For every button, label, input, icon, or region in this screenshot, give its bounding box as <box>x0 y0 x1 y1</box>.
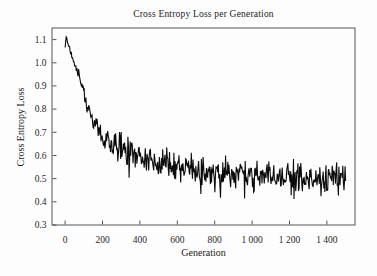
x-tick-label: 600 <box>170 235 185 245</box>
y-tick-label: 1.0 <box>35 58 47 68</box>
loss-line-chart: 02004006008001 0001 2001 4000.30.40.50.6… <box>0 0 377 276</box>
y-tick-label: 0.3 <box>35 220 47 230</box>
y-tick-label: 0.6 <box>35 151 47 161</box>
x-tick-label: 800 <box>208 235 223 245</box>
x-tick-label: 1 200 <box>279 235 301 245</box>
x-tick-label: 1 400 <box>316 235 338 245</box>
x-tick-label: 200 <box>95 235 110 245</box>
y-tick-label: 0.7 <box>35 128 47 138</box>
y-tick-label: 0.8 <box>35 104 47 114</box>
y-tick-label: 0.5 <box>35 174 47 184</box>
x-tick-label: 0 <box>63 235 68 245</box>
x-tick-label: 400 <box>133 235 148 245</box>
y-tick-label: 0.9 <box>35 81 47 91</box>
figure: Cross Entropy Loss per Generation Cross … <box>0 0 377 276</box>
loss-curve <box>65 37 346 199</box>
y-tick-label: 1.1 <box>35 35 47 45</box>
y-tick-label: 0.4 <box>35 197 47 207</box>
x-tick-label: 1 000 <box>241 235 263 245</box>
